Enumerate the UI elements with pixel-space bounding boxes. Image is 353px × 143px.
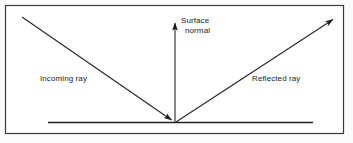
reflection-diagram: Incoming ray Surface normal Reflected ra…	[0, 0, 353, 143]
surface-normal-label-line2: normal	[185, 26, 210, 35]
reflected-ray-label: Reflected ray	[252, 74, 300, 83]
incoming-ray-label: Incoming ray	[40, 74, 87, 83]
surface-normal-label-line1: Surface	[181, 16, 210, 25]
diagram-page: Incoming ray Surface normal Reflected ra…	[0, 0, 353, 143]
